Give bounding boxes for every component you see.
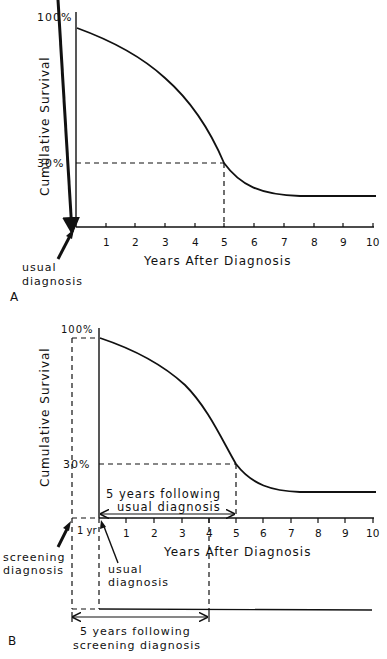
panel-a-x-axis-label: Years After Diagnosis bbox=[144, 255, 291, 267]
panel-b-usual-span-label-2: usual diagnosis bbox=[117, 502, 221, 514]
panel-b-usual-span-label-1: 5 years following bbox=[106, 489, 221, 501]
panel-a-survival-curve bbox=[77, 28, 376, 196]
panel-b-label: B bbox=[8, 634, 16, 648]
panel-b-screening-arrow bbox=[58, 527, 68, 547]
panel-b-survival-curve bbox=[100, 338, 376, 492]
panel-b-y30-label: 30% bbox=[63, 459, 90, 470]
panel-b-ticks bbox=[126, 518, 373, 523]
panel-b-reference-lines bbox=[72, 338, 236, 612]
panel-b-y100-label: 100% bbox=[61, 325, 94, 335]
panel-a-usual-label-1: usual bbox=[22, 262, 56, 273]
panel-a-y100-label: 100% bbox=[37, 12, 72, 23]
panel-a-reference-lines bbox=[76, 163, 224, 227]
panel-b-screening-span-label-2: screening diagnosis bbox=[73, 640, 201, 651]
panel-a-axes bbox=[76, 12, 374, 227]
panel-b-x-axis-label: Years After Diagnosis bbox=[164, 546, 311, 558]
panel-b-usual-arrow bbox=[103, 524, 118, 563]
panel-b-usual-label-2: diagnosis bbox=[108, 577, 169, 588]
panel-b-screening-label-1: screening bbox=[3, 552, 66, 563]
panel-a-label: A bbox=[10, 290, 18, 304]
panel-b-usual-label-1: usual bbox=[108, 564, 142, 575]
panel-a-y-axis-label: Cumulative Survival bbox=[38, 56, 52, 196]
panel-a-usual-diagnosis-arrow bbox=[58, 0, 72, 232]
panel-b-y-axis-label: Cumulative Survival bbox=[38, 347, 52, 487]
panel-b-screening-label-2: diagnosis bbox=[3, 565, 64, 576]
panel-b-one-year-label: 1 yr bbox=[77, 526, 97, 536]
panel-a-usual-label-2: diagnosis bbox=[22, 276, 83, 287]
panel-b-screening-span-label-1: 5 years following bbox=[80, 626, 191, 637]
